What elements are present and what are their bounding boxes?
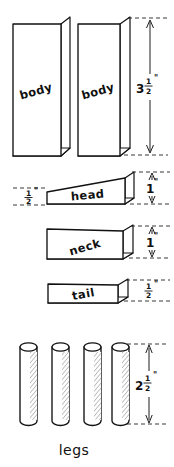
- leg-3-top-ellipse: [84, 343, 101, 351]
- dim-unit-head: ": [154, 178, 158, 187]
- leg-3-shading: [94, 352, 101, 420]
- leg-2-shading: [62, 352, 69, 420]
- leg-2-top-ellipse: [52, 343, 69, 351]
- leg-4-top-ellipse: [112, 343, 129, 351]
- dim-denominator-leg: 2: [145, 384, 150, 393]
- dim-unit-body: ": [154, 74, 158, 83]
- dim-denominator-tail: 2: [146, 291, 151, 300]
- parts-diagram-svg: body body 3 1 2 ": [0, 0, 174, 467]
- dimension-head-thin-end: 1 2 ": [13, 187, 48, 206]
- part-tail: tail: [48, 279, 128, 303]
- leg-4: [112, 343, 129, 426]
- dimension-tail-height: 1 2 ": [124, 280, 170, 301]
- dim-text-leg-length: 2 1 2 ": [132, 371, 168, 397]
- dim-denominator-body: 2: [146, 87, 151, 96]
- dimension-leg-length: 2 1 2 ": [127, 344, 168, 424]
- dim-whole-body: 3: [136, 82, 144, 96]
- dim-numerator-leg: 1: [145, 374, 150, 383]
- leg-1-shading: [30, 352, 37, 420]
- leg-3: [84, 343, 101, 426]
- dim-unit-neck: ": [154, 232, 158, 241]
- leg-1: [20, 343, 37, 426]
- leg-1-top-ellipse: [20, 343, 37, 351]
- dim-numerator-tail: 1: [146, 282, 151, 291]
- drawing-sheet: body body 3 1 2 ": [0, 0, 174, 467]
- part-body-left: body: [13, 17, 70, 156]
- dimension-neck-height: 1 ": [129, 226, 170, 258]
- dim-text-head-height: 1 ": [143, 178, 165, 196]
- dim-text-tail-height: 1 2 ": [140, 280, 164, 300]
- dim-text-body-height: 3 1 2 ": [133, 74, 167, 100]
- part-head: head: [47, 172, 134, 204]
- part-label-head: head: [70, 187, 105, 204]
- dimension-head-height: 1 ": [130, 172, 170, 204]
- dim-unit-head-thin: ": [34, 187, 38, 196]
- dim-unit-tail: ": [154, 280, 158, 289]
- part-legs-group: [20, 343, 129, 426]
- dim-text-head-thin: 1 2 ": [22, 187, 40, 206]
- body-right-side-face: [120, 17, 130, 156]
- dim-whole-leg: 2: [135, 379, 143, 393]
- dim-text-neck-height: 1 ": [143, 232, 165, 250]
- part-body-right: body: [78, 17, 130, 156]
- leg-2: [52, 343, 69, 426]
- leg-4-shading: [122, 352, 129, 420]
- part-neck: neck: [47, 225, 133, 259]
- dim-denominator-head-thin: 2: [26, 197, 31, 206]
- dim-numerator-body: 1: [146, 77, 151, 86]
- dim-unit-leg: ": [153, 371, 157, 380]
- caption-legs: legs: [59, 442, 90, 458]
- body-left-side-face: [61, 17, 70, 156]
